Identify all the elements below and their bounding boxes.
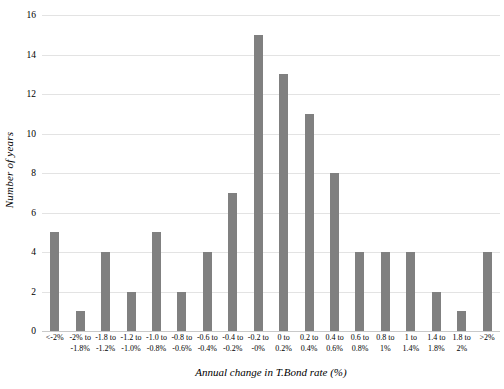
x-axis-tick-label: -1.2 to -1.0% bbox=[118, 333, 143, 354]
y-axis-tick-label: 8 bbox=[6, 168, 36, 178]
bar-slot bbox=[169, 15, 194, 331]
bar bbox=[279, 74, 288, 331]
bar-slot bbox=[118, 15, 143, 331]
x-axis-tick-label: >2% bbox=[474, 333, 499, 354]
x-axis-tick-label: -0.2 to -0% bbox=[246, 333, 271, 354]
bar-slot bbox=[67, 15, 92, 331]
bar bbox=[101, 252, 110, 331]
y-axis-tick-label: 4 bbox=[6, 247, 36, 257]
bar-slot bbox=[296, 15, 321, 331]
y-axis-tick-label: 0 bbox=[6, 326, 36, 336]
y-axis-tick-label: 14 bbox=[6, 50, 36, 60]
x-axis-tick-label: 0.4 to 0.6% bbox=[322, 333, 347, 354]
bar bbox=[177, 292, 186, 332]
bar bbox=[228, 193, 237, 331]
bar bbox=[76, 311, 85, 331]
bar-slot bbox=[322, 15, 347, 331]
y-axis-tick-label: 12 bbox=[6, 89, 36, 99]
y-axis-tick-label: 6 bbox=[6, 208, 36, 218]
bar bbox=[355, 252, 364, 331]
bar bbox=[152, 232, 161, 331]
x-axis-tick-label: -1.8 to -1.2% bbox=[93, 333, 118, 354]
x-axis-title: Annual change in T.Bond rate (%) bbox=[42, 366, 500, 378]
bar-slot bbox=[373, 15, 398, 331]
bar-slot bbox=[449, 15, 474, 331]
bar-slot bbox=[144, 15, 169, 331]
x-axis-tick-label: 0 to 0.2% bbox=[271, 333, 296, 354]
x-axis-tick-label: 1.8 to 2% bbox=[449, 333, 474, 354]
x-axis-tick-label: -0.8 to -0.6% bbox=[169, 333, 194, 354]
x-axis-tick-label: -0.6 to -0.4% bbox=[195, 333, 220, 354]
bar bbox=[305, 114, 314, 331]
bar bbox=[203, 252, 212, 331]
bar bbox=[254, 35, 263, 331]
x-axis-tick-label: 0.2 to 0.4% bbox=[296, 333, 321, 354]
bar bbox=[406, 252, 415, 331]
x-axis-tick-label: -2% to -1.8% bbox=[67, 333, 92, 354]
bar bbox=[432, 292, 441, 332]
x-axis-tick-label: 0.8 to 1% bbox=[373, 333, 398, 354]
x-axis-tick-label: 1.4 to 1.8% bbox=[424, 333, 449, 354]
bar-slot bbox=[424, 15, 449, 331]
bar bbox=[50, 232, 59, 331]
x-axis-tick-label: 0.6 to 0.8% bbox=[347, 333, 372, 354]
bar bbox=[483, 252, 492, 331]
bar-slot bbox=[246, 15, 271, 331]
bar bbox=[381, 252, 390, 331]
y-axis-tick-label: 10 bbox=[6, 129, 36, 139]
plot-area bbox=[42, 15, 500, 331]
x-axis-tick-label: 1 to 1.4% bbox=[398, 333, 423, 354]
x-axis-tick-label: <-2% bbox=[42, 333, 67, 354]
bar bbox=[330, 173, 339, 331]
y-axis-tick-label: 16 bbox=[6, 10, 36, 20]
bar bbox=[127, 292, 136, 332]
bar-slot bbox=[42, 15, 67, 331]
x-axis-tick-label: -1.0 to -0.8% bbox=[144, 333, 169, 354]
bar-slot bbox=[474, 15, 499, 331]
histogram-chart: Number of years 0246810121416 <-2%-2% to… bbox=[0, 0, 504, 389]
bar-slot bbox=[93, 15, 118, 331]
y-axis-tick-label: 2 bbox=[6, 287, 36, 297]
bars bbox=[42, 15, 500, 331]
bar-slot bbox=[347, 15, 372, 331]
bar-slot bbox=[271, 15, 296, 331]
bar-slot bbox=[195, 15, 220, 331]
x-axis-tick-labels: <-2%-2% to -1.8%-1.8 to -1.2%-1.2 to -1.… bbox=[42, 333, 500, 354]
bar-slot bbox=[398, 15, 423, 331]
x-axis-tick-label: -0.4 to -0.2% bbox=[220, 333, 245, 354]
gridline bbox=[42, 331, 500, 332]
bar bbox=[457, 311, 466, 331]
bar-slot bbox=[220, 15, 245, 331]
